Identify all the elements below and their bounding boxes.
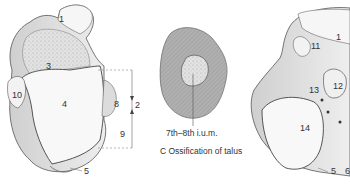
- label-8: 8: [114, 100, 119, 109]
- label-5-right: 5: [331, 167, 336, 176]
- talus-left-view: [7, 5, 134, 172]
- label-9: 9: [120, 130, 125, 139]
- ossification-diagram: [160, 28, 227, 126]
- label-1-right: 1: [336, 33, 341, 42]
- figure-caption: C Ossification of talus: [160, 146, 242, 156]
- label-14: 14: [300, 124, 310, 133]
- talus-illustration: [0, 0, 350, 184]
- label-3: 3: [46, 62, 51, 71]
- label-1-left: 1: [59, 15, 64, 24]
- label-11: 11: [311, 42, 320, 51]
- label-6: 6: [345, 167, 350, 176]
- label-13: 13: [309, 86, 319, 95]
- label-4: 4: [62, 100, 67, 109]
- label-2: 2: [135, 101, 140, 110]
- label-12: 12: [333, 82, 343, 91]
- label-10: 10: [12, 91, 22, 100]
- age-label: 7th–8th i.u.m.: [166, 128, 218, 138]
- label-5-left: 5: [84, 167, 89, 176]
